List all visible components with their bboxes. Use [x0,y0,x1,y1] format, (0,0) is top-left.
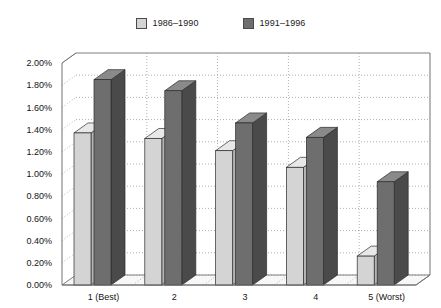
y-axis-tick-label: 0.80% [26,191,52,201]
bar-side-face [394,172,408,285]
x-axis-tick-labels: 1 (Best)2345 (Worst) [88,292,405,302]
bar-side-face [253,113,267,285]
plot-area: 2.00%1.80%1.60%1.40%1.20%1.00%0.80%0.60%… [0,0,441,308]
bar-front-face [145,138,162,285]
bar-5-1991-1996 [377,172,408,285]
bar-front-face [94,80,111,285]
x-axis-tick-label: 5 (Worst) [368,292,405,302]
x-axis-tick-label: 1 (Best) [88,292,120,302]
bar-front-face [165,91,182,285]
bar-side-face [182,81,196,285]
y-axis-tick-label: 0.20% [26,258,52,268]
y-axis-tick-label: 1.40% [26,125,52,135]
bar-front-face [377,182,394,285]
bar-4-1991-1996 [306,127,337,285]
y-axis-tick-label: 0.40% [26,236,52,246]
y-axis-tick-label: 1.00% [26,169,52,179]
y-axis-tick-label: 1.60% [26,103,52,113]
y-axis-tick-label: 0.00% [26,280,52,290]
chart-container: 1986–1990 1991–1996 2.00%1.80%1.60%1.40%… [0,0,441,308]
x-axis-tick-label: 2 [172,292,177,302]
bar-3-1991-1996 [236,113,267,285]
bar-front-face [286,167,303,285]
bar-front-face [306,137,323,285]
y-axis-tick-label: 0.60% [26,214,52,224]
y-axis-tick-label: 1.20% [26,147,52,157]
bar-side-face [323,127,337,285]
bar-front-face [236,123,253,285]
bar-front-face [74,133,91,285]
bar-2-1991-1996 [165,81,196,285]
y-axis-tick-label: 2.00% [26,58,52,68]
bar-front-face [357,256,374,285]
bar-front-face [216,151,233,285]
x-axis-tick-label: 4 [313,292,318,302]
y-axis-tick-labels: 2.00%1.80%1.60%1.40%1.20%1.00%0.80%0.60%… [26,58,52,290]
bar-1-1991-1996 [94,70,125,285]
y-axis-tick-label: 1.80% [26,80,52,90]
x-axis-tick-label: 3 [242,292,247,302]
bar-side-face [111,70,125,285]
